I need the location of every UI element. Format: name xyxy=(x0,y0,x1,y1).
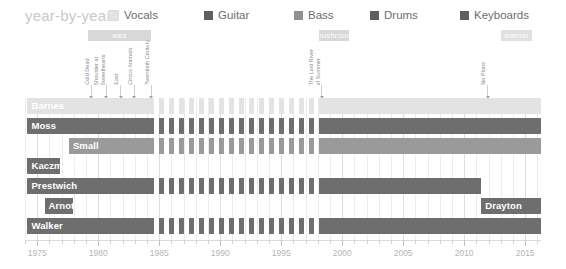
legend-label: Vocals xyxy=(124,9,158,21)
timeline-row-walker[interactable]: Walker xyxy=(25,218,541,234)
timeline-bar[interactable] xyxy=(149,118,319,134)
timeline-plot: BarnesMossSmallKaczmarekPrestwichArnottD… xyxy=(25,98,541,240)
legend-swatch-icon xyxy=(370,11,379,20)
axis-tick-minor xyxy=(74,240,75,244)
row-label-walker: Walker xyxy=(31,218,62,234)
axis-tick-major xyxy=(98,240,99,246)
annotation-leader-line xyxy=(120,85,121,98)
timeline-bar[interactable] xyxy=(149,98,319,114)
axis-tick-minor xyxy=(501,240,502,244)
axis-tick-label: 1995 xyxy=(272,248,291,258)
axis-tick-minor xyxy=(379,240,380,244)
legend-swatch-icon xyxy=(294,11,303,20)
legend-item-drums[interactable]: Drums xyxy=(370,9,418,21)
axis-tick-minor xyxy=(354,240,355,244)
axis-tick-major xyxy=(159,240,160,246)
axis-tick-minor xyxy=(318,240,319,244)
axis-tick-minor xyxy=(49,240,50,244)
timeline-bar[interactable] xyxy=(319,218,541,234)
timeline-bar[interactable] xyxy=(149,138,319,154)
axis-tick-minor xyxy=(489,240,490,244)
chart-header: year-by-year VocalsGuitarBassDrumsKeyboa… xyxy=(0,0,566,28)
axis-tick-minor xyxy=(86,240,87,244)
timeline-row-moss[interactable]: Moss xyxy=(25,118,541,134)
timeline-bar[interactable] xyxy=(149,218,319,234)
axis-tick-minor xyxy=(330,240,331,244)
label-band-text: wea xyxy=(112,32,127,40)
timeline-row-barnes[interactable]: Barnes xyxy=(25,98,541,114)
annotation-leader-line xyxy=(91,85,92,98)
year-by-year-chart: year-by-year VocalsGuitarBassDrumsKeyboa… xyxy=(0,0,566,269)
axis-tick-minor xyxy=(147,240,148,244)
row-label-prestwich: Prestwich xyxy=(31,178,77,194)
label-band-warner: warner xyxy=(501,30,533,41)
axis-tick-major xyxy=(342,240,343,246)
timeline-row-small[interactable]: Small xyxy=(25,138,541,154)
x-axis: 197519801985199019952000200520102015 xyxy=(25,240,541,262)
annotation-leader-line xyxy=(321,85,322,98)
axis-tick-minor xyxy=(415,240,416,244)
axis-tick-label: 2015 xyxy=(516,248,535,258)
timeline-bar[interactable] xyxy=(319,138,541,154)
timeline-row-kaczmarek[interactable]: Kaczmarek xyxy=(25,158,541,174)
axis-tick-label: 1980 xyxy=(89,248,108,258)
legend-item-keyboards[interactable]: Keyboards xyxy=(460,9,529,21)
timeline-row-prestwich[interactable]: Prestwich xyxy=(25,178,541,194)
axis-tick-minor xyxy=(184,240,185,244)
axis-tick-minor xyxy=(208,240,209,244)
timeline-row-drayton[interactable]: Drayton xyxy=(25,198,541,214)
annotation-leader-line xyxy=(487,85,488,98)
axis-tick-minor xyxy=(171,240,172,244)
legend-item-bass[interactable]: Bass xyxy=(294,9,334,21)
annotation-leader-line xyxy=(106,85,107,98)
annotation-label: Circus Animals xyxy=(127,48,134,85)
axis-tick-minor xyxy=(110,240,111,244)
annotation-label: East xyxy=(113,74,120,85)
axis-tick-major xyxy=(37,240,38,246)
legend-label: Keyboards xyxy=(474,9,529,21)
axis-tick-minor xyxy=(452,240,453,244)
timeline-bar[interactable] xyxy=(149,178,319,194)
axis-tick-minor xyxy=(25,240,26,244)
timeline-bar[interactable] xyxy=(319,118,541,134)
annotation-label: Twentieth Century xyxy=(144,40,151,85)
axis-tick-minor xyxy=(537,240,538,244)
axis-tick-label: 2000 xyxy=(333,248,352,258)
timeline-bar[interactable] xyxy=(319,98,541,114)
annotation-leader-line xyxy=(151,85,152,98)
timeline-bar[interactable] xyxy=(319,178,481,194)
legend-swatch-icon xyxy=(204,11,213,20)
axis-tick-minor xyxy=(232,240,233,244)
axis-tick-minor xyxy=(367,240,368,244)
axis-tick-major xyxy=(464,240,465,246)
axis-tick-minor xyxy=(245,240,246,244)
row-label-drayton: Drayton xyxy=(485,198,522,214)
annotation-label: No Plans xyxy=(481,62,488,85)
axis-tick-major xyxy=(220,240,221,246)
annotation-label: Shoulder at Sweethearts xyxy=(92,43,106,85)
label-band-wea: wea xyxy=(88,30,150,41)
label-band-text: warner xyxy=(504,32,529,40)
legend-label: Guitar xyxy=(218,9,249,21)
axis-tick-minor xyxy=(513,240,514,244)
axis-tick-major xyxy=(525,240,526,246)
page-title: year-by-year xyxy=(25,7,112,24)
axis-tick-minor xyxy=(306,240,307,244)
axis-tick-label: 1975 xyxy=(28,248,47,258)
axis-tick-minor xyxy=(135,240,136,244)
axis-tick-minor xyxy=(391,240,392,244)
row-label-moss: Moss xyxy=(31,118,56,134)
legend-item-guitar[interactable]: Guitar xyxy=(204,9,249,21)
legend-item-vocals[interactable]: Vocals xyxy=(108,9,158,21)
axis-tick-minor xyxy=(62,240,63,244)
axis-tick-minor xyxy=(476,240,477,244)
row-label-barnes: Barnes xyxy=(31,98,64,114)
annotation-label: The Last River of Summer xyxy=(308,43,322,85)
axis-tick-minor xyxy=(123,240,124,244)
axis-tick-minor xyxy=(269,240,270,244)
label-band-text: mushroom xyxy=(315,32,353,40)
row-label-small: Small xyxy=(73,138,99,154)
axis-tick-label: 1990 xyxy=(211,248,230,258)
axis-tick-major xyxy=(281,240,282,246)
annotation-leader-line xyxy=(134,85,135,98)
